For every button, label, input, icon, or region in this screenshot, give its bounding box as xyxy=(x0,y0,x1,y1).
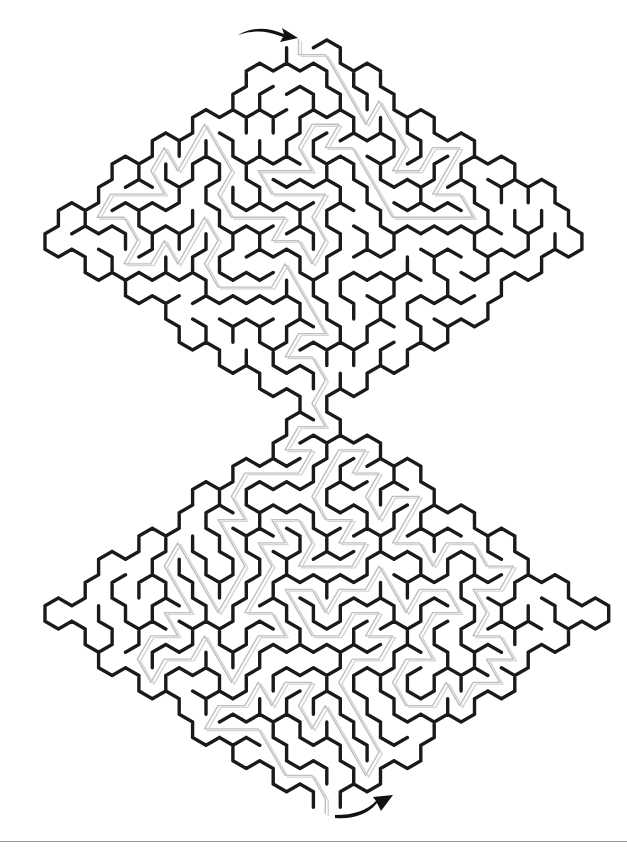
maze-walls xyxy=(45,40,609,807)
exit-arrow-icon xyxy=(335,795,393,818)
page-divider xyxy=(0,841,627,842)
maze-canvas xyxy=(0,0,627,848)
wall-segments xyxy=(45,40,609,807)
maze-puzzle xyxy=(0,0,627,848)
entry-arrow-icon xyxy=(238,28,298,42)
solution-path xyxy=(97,39,516,816)
